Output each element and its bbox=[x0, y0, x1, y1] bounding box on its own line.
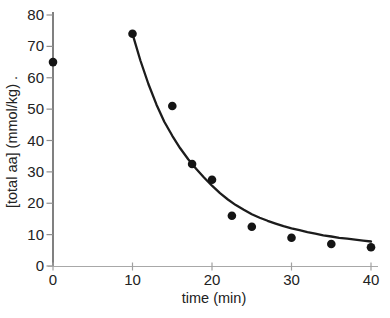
chart: 01020304050607080 [total aa] (mmol/kg) .… bbox=[0, 0, 390, 318]
data-point bbox=[208, 175, 217, 184]
y-tick-label: 10 bbox=[27, 226, 44, 243]
data-point bbox=[228, 212, 237, 221]
x-tick-label: 40 bbox=[363, 271, 380, 288]
y-tick-label: 80 bbox=[27, 6, 44, 23]
data-points bbox=[49, 30, 376, 252]
y-tick-label: 50 bbox=[27, 100, 44, 117]
data-point bbox=[287, 234, 296, 243]
x-axis: 010203040 time (min) bbox=[48, 263, 379, 307]
y-axis-tick-labels: 01020304050607080 bbox=[27, 6, 44, 274]
y-tick-label: 20 bbox=[27, 194, 44, 211]
x-tick-label: 10 bbox=[124, 271, 141, 288]
data-point bbox=[49, 58, 58, 67]
y-tick-label: 0 bbox=[36, 257, 44, 274]
fit-curve bbox=[133, 34, 372, 242]
x-axis-tick-labels: 010203040 bbox=[49, 271, 380, 288]
y-tick-label: 30 bbox=[27, 163, 44, 180]
x-tick-label: 30 bbox=[283, 271, 300, 288]
y-axis: 01020304050607080 [total aa] (mmol/kg) . bbox=[4, 6, 53, 274]
y-tick-label: 70 bbox=[27, 37, 44, 54]
data-point bbox=[128, 30, 137, 39]
data-point bbox=[327, 240, 336, 249]
data-point bbox=[367, 243, 376, 252]
x-axis-title: time (min) bbox=[182, 290, 246, 306]
x-tick-label: 0 bbox=[49, 271, 57, 288]
data-point bbox=[168, 102, 177, 111]
y-axis-ticks bbox=[47, 15, 54, 266]
y-tick-label: 60 bbox=[27, 69, 44, 86]
x-tick-label: 20 bbox=[204, 271, 221, 288]
data-point bbox=[248, 223, 257, 232]
y-tick-label: 40 bbox=[27, 132, 44, 149]
chart-canvas: 01020304050607080 [total aa] (mmol/kg) .… bbox=[0, 0, 390, 318]
data-point bbox=[188, 160, 197, 169]
y-axis-title: [total aa] (mmol/kg) . bbox=[4, 76, 20, 208]
